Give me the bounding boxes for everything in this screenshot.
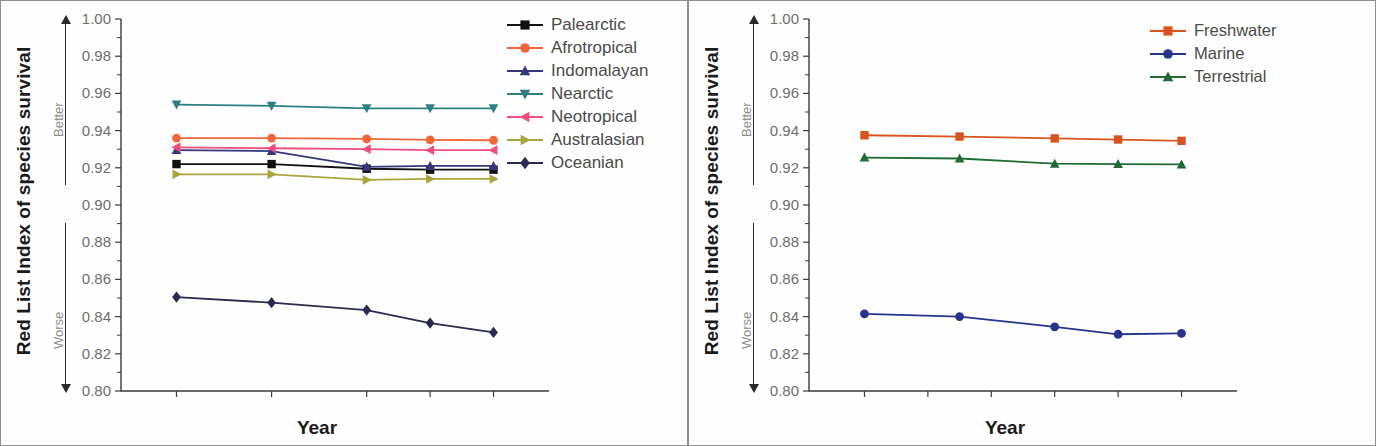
plot-area-left: 1.000.980.960.940.920.900.880.860.840.82…: [77, 5, 557, 405]
legend-swatch-circle-icon: [1149, 46, 1187, 62]
legend-item-nearctic[interactable]: Nearctic: [506, 82, 648, 105]
legend-item-freshwater[interactable]: Freshwater: [1149, 19, 1277, 42]
legend-label: Neotropical: [551, 108, 637, 125]
y-tick-label: 0.92: [770, 159, 799, 176]
series-marker: [426, 135, 435, 144]
y-tick-label: 0.92: [82, 159, 111, 176]
y-tick-label: 0.86: [770, 270, 799, 287]
series-marker: [267, 134, 276, 143]
x-tick-label: 1988: [159, 403, 193, 405]
series-marker: [490, 174, 499, 184]
y-tick-label: 0.80: [770, 382, 799, 399]
series-oceanian: [172, 291, 498, 338]
legend-label: Marine: [1194, 45, 1244, 62]
series-line: [176, 164, 493, 170]
series-marker: [426, 317, 435, 328]
series-marker: [1114, 330, 1123, 339]
series-marker: [267, 160, 275, 168]
legend-label: Afrotropical: [551, 39, 637, 56]
legend-right: FreshwaterMarineTerrestrial: [1149, 19, 1277, 88]
better-label-right: Better: [739, 102, 754, 137]
chart-svg: 1.000.980.960.940.920.900.880.860.840.82…: [77, 5, 557, 405]
series-neotropical: [171, 143, 497, 155]
legend-label: Palearctic: [551, 16, 626, 33]
legend-swatch-triangle-right-icon: [506, 132, 544, 148]
series-terrestrial: [860, 153, 1187, 169]
legend-marker: [520, 20, 529, 29]
series-marker: [172, 169, 181, 179]
y-tick-label: 0.90: [82, 196, 111, 213]
x-tick-label: 2000: [1037, 403, 1072, 405]
y-tick-label: 0.94: [770, 122, 799, 139]
legend-label: Australasian: [551, 131, 645, 148]
series-marker: [363, 175, 372, 185]
series-line: [864, 158, 1181, 165]
series-marker: [1051, 134, 1059, 142]
legend-swatch-triangle-down-icon: [506, 86, 544, 102]
series-marker: [362, 135, 371, 144]
legend-item-neotropical[interactable]: Neotropical: [506, 105, 648, 128]
series-nearctic: [172, 101, 499, 114]
series-marker: [1050, 322, 1059, 331]
legend-marker: [1163, 49, 1173, 59]
legend-label: Terrestrial: [1194, 68, 1266, 85]
series-marker: [860, 309, 869, 318]
series-marker: [488, 145, 497, 155]
x-tick-label: 1988: [847, 403, 881, 405]
y-tick-label: 1.00: [82, 10, 111, 27]
series-line: [864, 314, 1181, 334]
legend-swatch-square-icon: [1149, 23, 1187, 39]
series-line: [176, 297, 493, 332]
x-tick-label: 2000: [349, 403, 384, 405]
legend-swatch-triangle-up-icon: [506, 63, 544, 79]
axis-lines: [121, 19, 549, 391]
series-line: [176, 105, 493, 109]
legend-swatch-diamond-icon: [506, 155, 544, 171]
y-tick-label: 0.84: [82, 308, 111, 325]
y-tick-label: 0.90: [770, 196, 799, 213]
legend-label: Nearctic: [551, 85, 613, 102]
y-axis-title-right: Red List Index of species survival: [689, 1, 735, 401]
series-marker: [362, 304, 371, 315]
series-marker: [172, 291, 181, 302]
legend-item-oceanian[interactable]: Oceanian: [506, 151, 648, 174]
legend-label: Indomalayan: [551, 62, 648, 79]
legend-label: Freshwater: [1194, 22, 1277, 39]
legend-item-australasian[interactable]: Australasian: [506, 128, 648, 151]
worse-label-right: Worse: [739, 312, 754, 349]
legend-item-terrestrial[interactable]: Terrestrial: [1149, 65, 1277, 88]
series-australasian: [172, 169, 498, 184]
legend-left: PalearcticAfrotropicalIndomalayanNearcti…: [506, 13, 648, 174]
x-tick-label: 1992: [911, 403, 945, 405]
legend-swatch-triangle-up-icon: [1149, 69, 1187, 85]
better-label-left: Better: [51, 102, 66, 137]
x-tick-label: 2008: [1164, 403, 1198, 405]
y-tick-label: 0.96: [82, 84, 111, 101]
series-freshwater: [860, 131, 1185, 145]
series-marker: [268, 169, 277, 179]
series-afrotropical: [172, 134, 498, 145]
series-marker: [955, 312, 964, 321]
y-tick-label: 0.98: [770, 47, 799, 64]
y-tick-label: 0.84: [770, 308, 799, 325]
chart-panel-systems: Red List Index of species survival Bette…: [688, 0, 1376, 446]
chart-panel-realms: Red List Index of species survival Bette…: [0, 0, 688, 446]
legend-item-palearctic[interactable]: Palearctic: [506, 13, 648, 36]
x-tick-label: 1994: [254, 403, 289, 405]
x-tick-label: 2008: [476, 403, 510, 405]
series-marker: [489, 136, 498, 145]
series-marker: [955, 132, 963, 140]
series-marker: [860, 131, 868, 139]
legend-marker: [520, 156, 530, 168]
worse-label-left: Worse: [51, 312, 66, 349]
y-tick-label: 0.80: [82, 382, 111, 399]
series-marker: [1177, 137, 1185, 145]
y-tick-label: 0.96: [770, 84, 799, 101]
legend-item-indomalayan[interactable]: Indomalayan: [506, 59, 648, 82]
figure-two-panel-chart: Red List Index of species survival Bette…: [0, 0, 1376, 446]
x-tick-label: 1996: [974, 403, 1008, 405]
series-marker: [426, 174, 435, 184]
legend-item-marine[interactable]: Marine: [1149, 42, 1277, 65]
legend-item-afrotropical[interactable]: Afrotropical: [506, 36, 648, 59]
series-line: [864, 135, 1181, 141]
